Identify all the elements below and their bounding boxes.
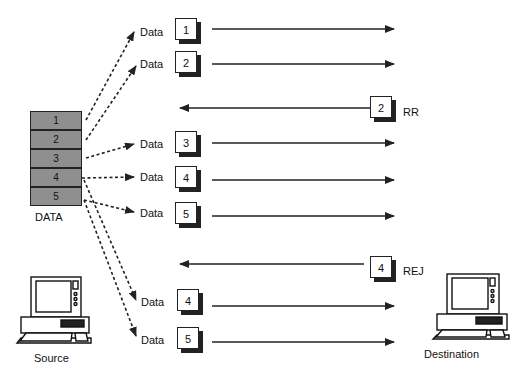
source-label: Source (34, 352, 69, 364)
frame-box: 5 (177, 327, 201, 351)
frame-label: REJ (403, 265, 424, 277)
frame-box: 2 (175, 51, 199, 75)
buffer-cell: 5 (30, 187, 82, 206)
frame-label: Data (141, 334, 164, 346)
buffer-cell: 2 (30, 130, 82, 149)
frame-label: Data (140, 138, 163, 150)
destination-label: Destination (424, 348, 479, 360)
frame-box: 1 (175, 18, 199, 42)
buffer-cell: 4 (30, 168, 82, 187)
frame-label: RR (403, 106, 419, 118)
frame-box: 4 (175, 166, 199, 190)
dashed-arrow-1 (86, 32, 134, 120)
destination-computer-icon (433, 274, 509, 339)
frame-label: Data (140, 26, 163, 38)
source-computer-icon (17, 277, 91, 343)
frame-box: 2 (370, 96, 394, 120)
buffer-label: DATA (35, 211, 63, 223)
frame-box: 5 (175, 202, 199, 226)
buffer-cell: 1 (30, 111, 82, 130)
buffer-cell: 3 (30, 149, 82, 168)
frame-label: Data (140, 171, 163, 183)
frame-box: 4 (177, 289, 201, 313)
frame-label: Data (141, 296, 164, 308)
frame-box: 3 (175, 131, 199, 155)
frame-label: Data (140, 58, 163, 70)
frame-box: 4 (370, 256, 394, 280)
frame-label: Data (140, 207, 163, 219)
